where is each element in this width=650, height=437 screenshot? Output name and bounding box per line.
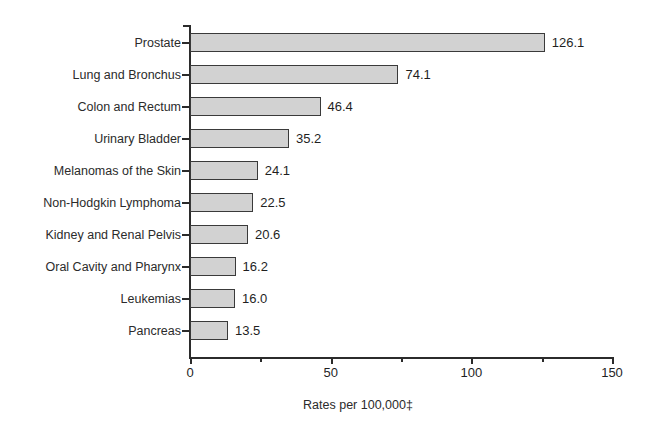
bar-value-label: 16.2 bbox=[243, 257, 268, 276]
y-axis-tick bbox=[182, 42, 190, 44]
category-label: Pancreas bbox=[0, 315, 181, 347]
category-label: Oral Cavity and Pharynx bbox=[0, 251, 181, 283]
y-axis-tick bbox=[182, 74, 190, 76]
y-axis-tick bbox=[182, 234, 190, 236]
y-axis-tick bbox=[182, 298, 190, 300]
bar-value-label: 46.4 bbox=[328, 97, 353, 116]
x-axis-title: Rates per 100,000‡ bbox=[0, 398, 650, 412]
y-axis-tick bbox=[182, 170, 190, 172]
x-axis-minor-tick bbox=[542, 357, 544, 362]
bar-row: Leukemias16.0 bbox=[0, 283, 650, 315]
bar bbox=[190, 321, 228, 340]
category-label: Urinary Bladder bbox=[0, 123, 181, 155]
x-axis-tick-label: 50 bbox=[323, 365, 337, 380]
bar-row: Non-Hodgkin Lymphoma22.5 bbox=[0, 187, 650, 219]
y-axis-tick bbox=[182, 202, 190, 204]
bar bbox=[190, 289, 235, 308]
bar bbox=[190, 257, 236, 276]
category-label: Lung and Bronchus bbox=[0, 59, 181, 91]
bar-value-label: 24.1 bbox=[265, 161, 290, 180]
bar bbox=[190, 97, 321, 116]
bar-value-label: 126.1 bbox=[552, 33, 585, 52]
category-label: Colon and Rectum bbox=[0, 91, 181, 123]
y-axis-tick bbox=[182, 106, 190, 108]
x-axis-minor-tick bbox=[260, 357, 262, 362]
x-axis-tick-label: 100 bbox=[460, 365, 482, 380]
category-label: Kidney and Renal Pelvis bbox=[0, 219, 181, 251]
bar bbox=[190, 161, 258, 180]
bar-value-label: 22.5 bbox=[260, 193, 285, 212]
bar-row: Lung and Bronchus74.1 bbox=[0, 59, 650, 91]
bar-row: Kidney and Renal Pelvis20.6 bbox=[0, 219, 650, 251]
bar-row: Oral Cavity and Pharynx16.2 bbox=[0, 251, 650, 283]
category-label: Leukemias bbox=[0, 283, 181, 315]
bar-value-label: 16.0 bbox=[242, 289, 267, 308]
x-axis-major-tick bbox=[471, 357, 473, 364]
bar-value-label: 74.1 bbox=[405, 65, 430, 84]
y-axis-tick bbox=[182, 266, 190, 268]
category-label: Non-Hodgkin Lymphoma bbox=[0, 187, 181, 219]
y-axis-tick bbox=[182, 138, 190, 140]
bar bbox=[190, 129, 289, 148]
bar-chart-figure: Prostate126.1Lung and Bronchus74.1Colon … bbox=[0, 0, 650, 437]
bar-value-label: 13.5 bbox=[235, 321, 260, 340]
y-axis-tick bbox=[182, 330, 190, 332]
bar-row: Prostate126.1 bbox=[0, 27, 650, 59]
bar-row: Melanomas of the Skin24.1 bbox=[0, 155, 650, 187]
bar-value-label: 35.2 bbox=[296, 129, 321, 148]
x-axis-title-text: Rates per 100,000‡ bbox=[237, 398, 413, 412]
x-axis-minor-tick bbox=[401, 357, 403, 362]
bar bbox=[190, 65, 398, 84]
bar bbox=[190, 225, 248, 244]
bar-value-label: 20.6 bbox=[255, 225, 280, 244]
bar-row: Pancreas13.5 bbox=[0, 315, 650, 347]
bar-row: Colon and Rectum46.4 bbox=[0, 91, 650, 123]
x-axis-major-tick bbox=[331, 357, 333, 364]
bar-row: Urinary Bladder35.2 bbox=[0, 123, 650, 155]
bar bbox=[190, 193, 253, 212]
x-axis-tick-label: 150 bbox=[601, 365, 623, 380]
x-axis-major-tick bbox=[190, 357, 192, 364]
bar bbox=[190, 33, 545, 52]
category-label: Prostate bbox=[0, 27, 181, 59]
x-axis-major-tick bbox=[612, 357, 614, 364]
category-label: Melanomas of the Skin bbox=[0, 155, 181, 187]
x-axis-tick-label: 0 bbox=[186, 365, 193, 380]
